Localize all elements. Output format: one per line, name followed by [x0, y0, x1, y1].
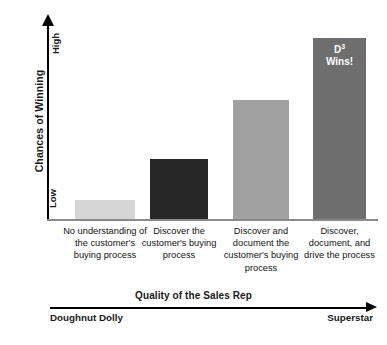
x-axis-arrow-icon: [366, 302, 377, 312]
bar-4: D3 Wins!: [313, 38, 366, 219]
chart-container: Chances of Winning High Low D3 Wins! No …: [0, 0, 387, 345]
category-label-2: Discover the customer's buying process: [141, 225, 217, 262]
category-labels: No understanding of the customer's buyin…: [48, 225, 378, 285]
x-axis-title: Quality of the Sales Rep: [0, 290, 387, 301]
x-axis-line: [50, 307, 368, 309]
y-axis-title: Chances of Winning: [33, 51, 45, 191]
bar-3: [233, 100, 289, 219]
d3-wins-annotation: D3 Wins!: [313, 44, 366, 69]
bar-1: [75, 200, 135, 220]
x-baseline: [47, 219, 378, 221]
bar-2: [150, 159, 208, 219]
d3-exponent: 3: [341, 42, 345, 49]
category-label-3: Discover and document the customer's buy…: [221, 225, 301, 274]
category-label-1: No understanding of the customer's buyin…: [61, 225, 149, 262]
x-axis-right-end-label: Superstar: [327, 312, 373, 323]
x-axis-left-end-label: Doughnut Dolly: [50, 312, 123, 323]
d3-wins-text: Wins!: [326, 56, 353, 67]
plot-area: D3 Wins!: [48, 24, 378, 219]
category-label-4: Discover, document, and drive the proces…: [302, 225, 378, 262]
